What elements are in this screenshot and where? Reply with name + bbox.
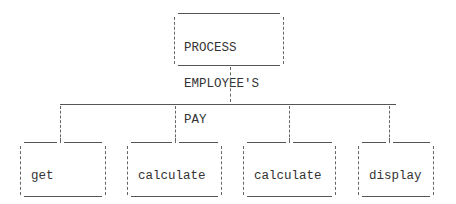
box-top-edge xyxy=(178,13,280,14)
box-left-edge xyxy=(358,146,359,195)
box-left-edge xyxy=(127,146,128,195)
box-right-edge xyxy=(283,17,284,64)
child-2-connector-tip xyxy=(175,138,176,143)
child-3-label-line-1: calculate xyxy=(254,170,329,182)
horizontal-bus-line xyxy=(60,104,396,105)
box-top-edge xyxy=(362,142,430,143)
box-right-edge xyxy=(335,146,336,195)
child-4-connector xyxy=(389,106,390,142)
child-2-connector xyxy=(175,106,176,142)
child-4-label-line-1: display xyxy=(369,170,422,182)
box-right-edge xyxy=(433,146,434,195)
child-box-get-employee-details: get employee details xyxy=(20,142,106,197)
box-right-edge xyxy=(105,146,106,195)
child-1-connector-tip xyxy=(60,138,61,143)
child-3-connector xyxy=(289,106,290,142)
root-label-line-3: PAY xyxy=(184,114,259,126)
child-box-calculate-weekly-pay-after-tax: calculate weekly pay after tax xyxy=(243,142,336,197)
child-1-connector xyxy=(60,106,61,142)
root-label-line-2: EMPLOYEE'S xyxy=(184,78,259,90)
box-left-edge xyxy=(174,17,175,64)
child-2-label-line-1: calculate xyxy=(138,170,213,182)
box-left-edge xyxy=(243,146,244,195)
child-box-calculate-weekly-pay-before-tax: calculate weekly pay before tax xyxy=(127,142,222,197)
root-box-process-employees-pay: PROCESS EMPLOYEE'S PAY xyxy=(174,13,284,66)
child-box-display-payslip: display payslip xyxy=(358,142,434,197)
root-connector-line xyxy=(230,67,231,102)
child-3-connector-tip xyxy=(289,138,290,143)
root-label-line-1: PROCESS xyxy=(184,42,259,54)
box-left-edge xyxy=(20,146,21,195)
child-1-label-line-1: get xyxy=(31,170,91,182)
child-4-connector-tip xyxy=(389,138,390,143)
box-right-edge xyxy=(221,146,222,195)
